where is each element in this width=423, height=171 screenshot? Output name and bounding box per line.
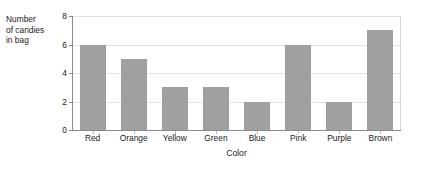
bar [326,102,352,131]
bar [121,59,147,130]
x-axis-tick-label: Brown [360,133,401,143]
bar [162,87,188,130]
bar [285,45,311,131]
bar [244,102,270,131]
x-axis-tick-label: Pink [278,133,319,143]
bar [367,30,393,130]
x-axis-tick-label: Green [195,133,236,143]
x-axis-tick-label: Orange [113,133,154,143]
x-axis-tick-label: Purple [319,133,360,143]
x-axis-title: Color [72,148,401,158]
cropped-title-remnant [180,0,400,3]
x-axis-line [72,130,401,131]
y-axis-tick-label: 2 [47,98,67,106]
bar [80,45,106,131]
y-axis-title-line-2: of candies [6,25,68,36]
y-axis-tick-label: 8 [47,12,67,20]
x-axis-tick-label: Red [72,133,113,143]
bar-chart-figure: Number of candies in bag 02468 RedOrange… [0,0,423,171]
y-axis-tick-label: 0 [47,126,67,134]
bars-group [72,16,401,130]
y-axis-tick-label: 6 [47,41,67,49]
bar [203,87,229,130]
y-axis-tick-label: 4 [47,69,67,77]
x-axis-tick-label: Blue [237,133,278,143]
x-axis-tick-label: Yellow [154,133,195,143]
